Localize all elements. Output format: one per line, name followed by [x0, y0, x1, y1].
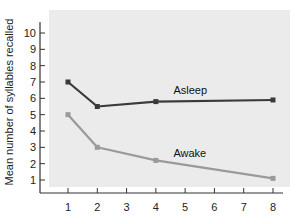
y-tick-label: 8 — [30, 60, 36, 72]
x-tick-label: 3 — [124, 201, 130, 213]
x-axis-ticks: 12345678 — [65, 188, 276, 213]
plot-panel — [49, 10, 290, 187]
data-point-marker — [95, 104, 100, 109]
x-tick-label: 7 — [241, 201, 247, 213]
x-tick-label: 6 — [211, 201, 217, 213]
y-tick-label: 6 — [30, 92, 36, 104]
y-tick-label: 3 — [30, 141, 36, 153]
x-tick-label: 1 — [65, 201, 71, 213]
data-point-marker — [271, 176, 276, 181]
y-axis-ticks: 12345678910 — [24, 27, 45, 186]
line-chart: 12345678910 12345678 Mean number of syll… — [0, 0, 298, 220]
y-tick-label: 5 — [30, 109, 36, 121]
x-tick-label: 5 — [182, 201, 188, 213]
y-tick-label: 10 — [24, 27, 36, 39]
data-point-marker — [95, 145, 100, 150]
series-label: Awake — [173, 147, 206, 159]
y-tick-label: 1 — [30, 174, 36, 186]
series-label: Asleep — [173, 84, 207, 96]
y-tick-label: 7 — [30, 76, 36, 88]
y-tick-label: 4 — [30, 125, 36, 137]
data-point-marker — [66, 112, 71, 117]
y-tick-label: 2 — [30, 158, 36, 170]
y-tick-label: 9 — [30, 43, 36, 55]
y-axis-label: Mean number of syllables recalled — [3, 19, 15, 186]
data-point-marker — [271, 97, 276, 102]
data-point-marker — [66, 80, 71, 85]
data-point-marker — [153, 99, 158, 104]
x-tick-label: 8 — [270, 201, 276, 213]
data-point-marker — [153, 158, 158, 163]
x-tick-label: 4 — [153, 201, 159, 213]
x-tick-label: 2 — [94, 201, 100, 213]
